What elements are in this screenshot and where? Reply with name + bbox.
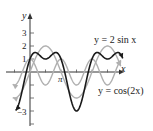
y-axis-arrow-icon xyxy=(28,13,33,19)
y-tick-neg3: −3 xyxy=(17,108,27,117)
y-tick-1: 1 xyxy=(22,55,27,64)
curves xyxy=(13,46,123,111)
x-tick-pi: π xyxy=(58,75,63,84)
arrow-icon xyxy=(13,97,19,102)
arrow-icon xyxy=(13,84,18,89)
y-axis-label: y xyxy=(22,11,26,21)
label-2sinx: y = 2 sin x xyxy=(94,35,136,45)
label-cos2x: y = cos(2x) xyxy=(98,86,144,96)
x-axis-label: x xyxy=(121,64,125,74)
curve-2 xyxy=(16,53,123,112)
y-tick-2: 2 xyxy=(22,42,27,51)
y-tick-3: 3 xyxy=(22,29,27,38)
